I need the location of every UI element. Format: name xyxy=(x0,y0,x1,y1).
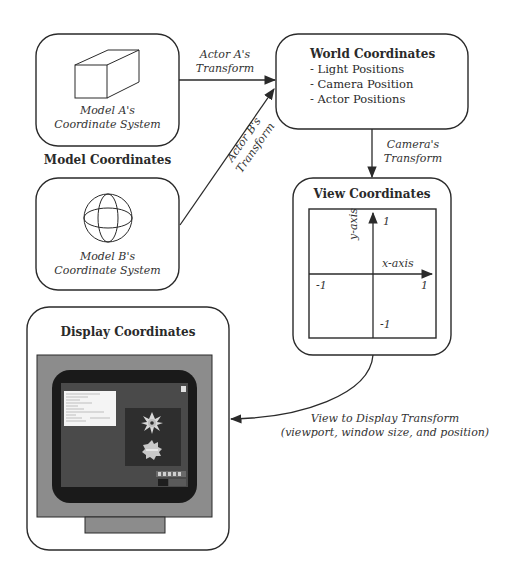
model-b-caption: Model B's Coordinate System xyxy=(36,250,179,278)
actor-a-transform-label: Actor A's Transform xyxy=(180,48,270,76)
view-to-display-label: View to Display Transform (viewport, win… xyxy=(275,412,495,440)
camera-transform-label: Camera's Transform xyxy=(378,138,448,166)
model-a-caption: Model A's Coordinate System xyxy=(36,104,179,132)
view-title: View Coordinates xyxy=(293,187,451,201)
model-b-caption-line1: Model B's xyxy=(36,250,179,264)
actor-a-label-line2: Transform xyxy=(180,62,270,76)
box-icon xyxy=(75,50,139,98)
view-box xyxy=(293,178,451,355)
model-b-caption-line2: Coordinate System xyxy=(36,264,179,278)
monitor-icon xyxy=(37,355,212,533)
x-axis-label: x-axis xyxy=(382,257,414,270)
camera-label-line1: Camera's xyxy=(378,138,448,152)
world-item-light: - Light Positions xyxy=(310,62,435,77)
y-axis-top-tick: 1 xyxy=(383,215,390,228)
x-axis-right-tick: 1 xyxy=(421,279,428,292)
display-title: Display Coordinates xyxy=(27,325,229,339)
y-axis-bottom-tick: -1 xyxy=(380,318,391,331)
y-axis-label: y-axis xyxy=(347,208,360,240)
view-to-display-line2: (viewport, window size, and position) xyxy=(275,426,495,440)
world-text: World Coordinates - Light Positions - Ca… xyxy=(310,46,435,107)
camera-label-line2: Transform xyxy=(378,152,448,166)
world-title: World Coordinates xyxy=(310,46,435,62)
sphere-icon xyxy=(84,194,132,242)
world-item-camera: - Camera Position xyxy=(310,77,435,92)
view-to-display-arrow xyxy=(231,355,373,419)
model-coordinates-title: Model Coordinates xyxy=(36,153,179,167)
view-to-display-line1: View to Display Transform xyxy=(275,412,495,426)
model-a-caption-line2: Coordinate System xyxy=(36,118,179,132)
model-a-caption-line1: Model A's xyxy=(36,104,179,118)
x-axis-left-tick: -1 xyxy=(316,279,327,292)
actor-a-label-line1: Actor A's xyxy=(180,48,270,62)
world-item-actor: - Actor Positions xyxy=(310,92,435,107)
